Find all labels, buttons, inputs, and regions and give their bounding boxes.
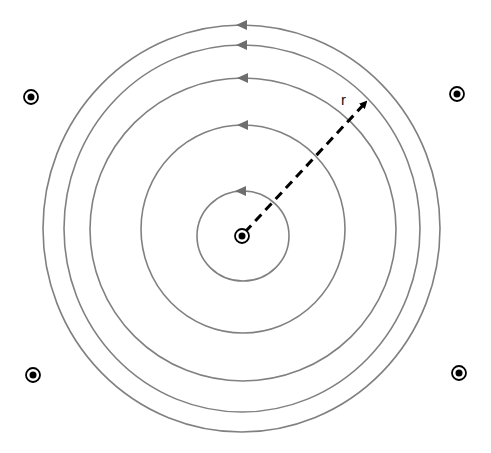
arrow-left-icon bbox=[236, 40, 247, 50]
corner-wire-top-right-icon bbox=[450, 87, 464, 101]
corner-wire-bottom-left-icon bbox=[26, 368, 40, 382]
center-wire-icon bbox=[235, 229, 249, 243]
corner-wire-top-left-icon bbox=[24, 90, 38, 104]
direction-arrows bbox=[235, 20, 248, 196]
radius-vector bbox=[245, 102, 366, 232]
arrow-left-icon bbox=[236, 20, 247, 30]
arrow-left-icon bbox=[235, 186, 246, 196]
corner-wire-bottom-right-icon bbox=[452, 366, 466, 380]
arrow-left-icon bbox=[237, 120, 248, 130]
magnetic-field-diagram: r bbox=[0, 0, 491, 453]
arrow-left-icon bbox=[237, 73, 248, 83]
radius-label: r bbox=[341, 91, 346, 108]
